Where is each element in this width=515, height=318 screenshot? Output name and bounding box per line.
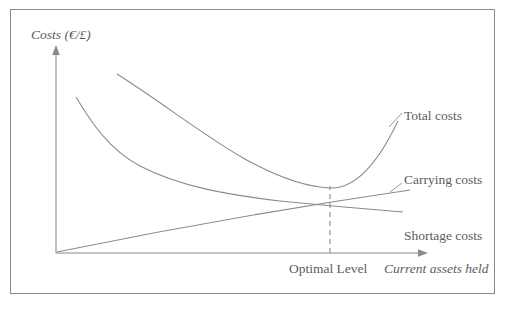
- leader-line-total-costs: [389, 113, 402, 127]
- curve-shortage-costs: [76, 97, 403, 212]
- x-axis-label: Current assets held: [384, 262, 489, 276]
- curve-carrying-costs: [57, 190, 410, 252]
- series-label-carrying-costs: Carrying costs: [404, 173, 482, 187]
- y-axis: [52, 45, 60, 253]
- x-axis: [56, 249, 428, 257]
- optimal-level-label: Optimal Level: [289, 262, 367, 276]
- series-label-total-costs: Total costs: [404, 109, 462, 123]
- figure-container: Costs (€/£) Total costs Carrying costs S…: [0, 0, 515, 318]
- leader-line-carrying-costs: [390, 183, 402, 192]
- series-label-shortage-costs: Shortage costs: [404, 229, 482, 243]
- y-axis-label: Costs (€/£): [31, 28, 91, 42]
- curve-total-costs: [117, 74, 398, 188]
